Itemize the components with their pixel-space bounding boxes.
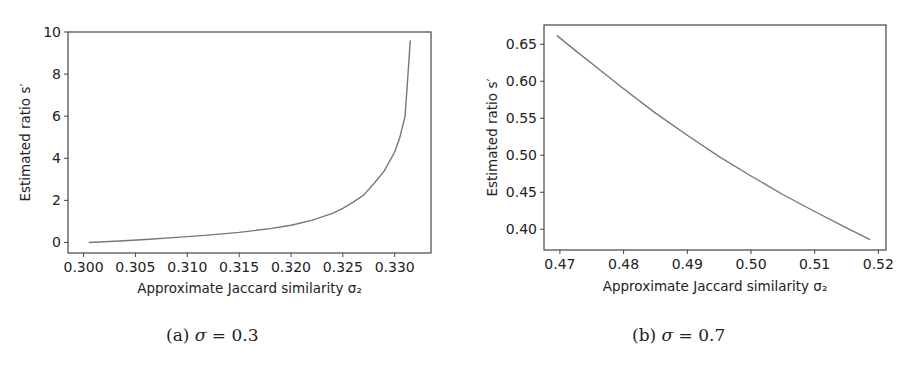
caption-a-label: (a) [166,325,189,345]
x-axis-label: Approximate Jaccard similarity σ₂ [137,280,362,296]
chart-b-svg: 0.470.480.490.500.510.520.400.450.500.55… [460,0,922,300]
x-tick-label: 0.325 [323,259,363,275]
y-tick-label: 0.65 [506,36,537,52]
data-line [89,40,411,242]
data-line [557,35,870,239]
x-tick-label: 0.47 [544,256,575,272]
x-tick-label: 0.50 [735,256,766,272]
x-tick-label: 0.51 [799,256,830,272]
y-tick-label: 8 [52,66,61,82]
y-axis-label: Estimated ratio s′ [17,83,33,201]
x-tick-label: 0.48 [608,256,639,272]
y-tick-label: 0.45 [506,184,537,200]
x-tick-label: 0.300 [64,259,104,275]
x-tick-label: 0.49 [672,256,703,272]
y-tick-label: 2 [52,192,61,208]
y-tick-label: 0.55 [506,110,537,126]
x-axis-label: Approximate Jaccard similarity σ₂ [603,278,828,294]
y-tick-label: 0.40 [506,221,537,237]
chart-a-svg: 0.3000.3050.3100.3150.3200.3250.33002468… [0,0,460,300]
x-tick-label: 0.315 [219,259,259,275]
chart-panel-b: 0.470.480.490.500.510.520.400.450.500.55… [460,0,922,300]
y-tick-label: 0.50 [506,147,537,163]
y-tick-label: 6 [52,108,61,124]
x-tick-label: 0.305 [115,259,155,275]
caption-b-eq: = 0.7 [673,325,725,345]
x-tick-label: 0.320 [271,259,311,275]
plot-frame [544,25,886,250]
caption-a-symbol: σ [195,325,207,345]
x-tick-label: 0.310 [167,259,207,275]
y-tick-label: 4 [52,150,61,166]
plot-frame [68,32,431,253]
caption-b-symbol: σ [662,325,674,345]
caption-b: (b) σ = 0.7 [632,325,725,345]
chart-panel-a: 0.3000.3050.3100.3150.3200.3250.33002468… [0,0,460,300]
caption-b-label: (b) [632,325,656,345]
x-tick-label: 0.330 [375,259,415,275]
y-tick-label: 0.60 [506,73,537,89]
y-axis-label: Estimated ratio s′ [484,78,500,196]
y-tick-label: 0 [52,234,61,250]
caption-a-eq: = 0.3 [206,325,258,345]
caption-a: (a) σ = 0.3 [166,325,259,345]
y-tick-label: 10 [43,24,61,40]
x-tick-label: 0.52 [863,256,894,272]
